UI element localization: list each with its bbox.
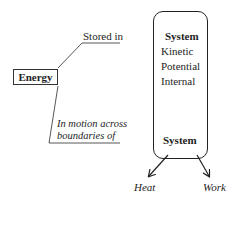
work-label: Work: [203, 182, 226, 193]
heat-label: Heat: [134, 182, 155, 193]
system-item-internal: Internal: [161, 76, 195, 87]
system-item-kinetic: Kinetic: [161, 46, 193, 57]
energy-box: Energy: [13, 69, 58, 85]
energy-label: Energy: [18, 71, 52, 83]
in-motion-label-line1: In motion across: [57, 119, 127, 130]
stored-in-connector: [58, 43, 120, 68]
in-motion-label-line2: boundaries of: [57, 131, 115, 142]
stored-in-label: Stored in: [83, 31, 123, 42]
system-title: System: [165, 31, 199, 42]
system-item-potential: Potential: [161, 61, 200, 72]
system-bottom-label: System: [163, 135, 197, 146]
